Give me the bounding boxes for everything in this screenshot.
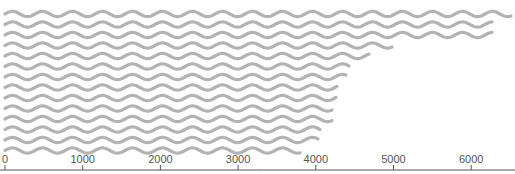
x-tick-label: 0 [2, 153, 8, 165]
wave-bar-1 [5, 11, 511, 16]
x-axis-ticks: 0100020003000400050006000 [2, 153, 483, 170]
wave-bar-12 [5, 127, 320, 132]
wavy-bar-chart: 0100020003000400050006000 [0, 0, 515, 174]
x-tick-label: 1000 [70, 153, 94, 165]
wave-bar-5 [5, 53, 369, 58]
x-tick-label: 5000 [381, 153, 405, 165]
wave-bar-10 [5, 106, 332, 111]
wave-bar-13 [5, 137, 318, 142]
wave-bar-8 [5, 85, 337, 90]
wave-bar-2 [5, 22, 492, 27]
x-axis: 0100020003000400050006000 [0, 153, 515, 170]
wave-bar-6 [5, 64, 349, 69]
wave-bar-9 [5, 95, 336, 100]
x-tick-label: 6000 [459, 153, 483, 165]
x-tick-label: 2000 [148, 153, 172, 165]
wave-series [5, 11, 511, 153]
wave-bar-11 [5, 116, 332, 121]
wave-bar-3 [5, 32, 492, 37]
wave-bar-7 [5, 74, 346, 79]
wave-bar-4 [5, 43, 392, 48]
x-tick-label: 3000 [226, 153, 250, 165]
x-tick-label: 4000 [304, 153, 328, 165]
